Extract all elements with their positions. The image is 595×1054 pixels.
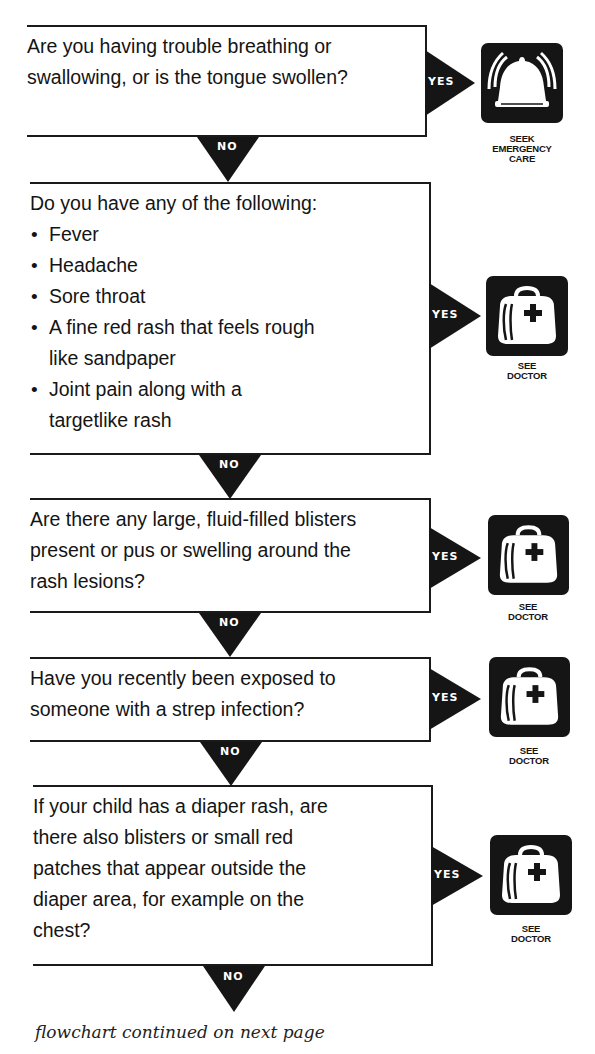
symptom-item: A fine red rash that feels rough like sa… [30, 312, 349, 374]
question-box-3: Are there any large, fluid-filled bliste… [30, 498, 431, 613]
yes-label-2: YES [432, 308, 458, 321]
yes-arrow-3: YES [429, 527, 481, 589]
no-label-1: NO [217, 140, 238, 153]
no-arrow-5: NO [203, 966, 265, 1012]
symptom-item: Headache [30, 250, 360, 281]
yes-arrow-1: YES [425, 50, 475, 116]
question-text-5: If your child has a diaper rash, are the… [33, 791, 363, 946]
continued-note: flowchart continued on next page [35, 1022, 325, 1042]
no-label-5: NO [223, 970, 244, 983]
yes-arrow-5: YES [431, 846, 483, 906]
emergency-bell-icon [481, 43, 563, 123]
question-box-4: Have you recently been exposed to someon… [30, 657, 431, 742]
doctor-bag-icon [490, 835, 572, 915]
symptom-list: Fever Headache Sore throat A fine red ra… [30, 219, 360, 436]
outcome-caption-4: SEE DOCTOR [481, 746, 577, 766]
no-label-3: NO [219, 616, 240, 629]
yes-label-1: YES [428, 75, 454, 88]
outcome-caption-1: SEEK EMERGENCY CARE [474, 134, 570, 164]
question-text-2: Do you have any of the following: [30, 188, 419, 219]
doctor-bag-icon [488, 515, 569, 595]
outcome-tile-3 [488, 515, 569, 595]
outcome-tile-2 [486, 276, 568, 356]
yes-label-4: YES [432, 691, 458, 704]
outcome-caption-5: SEE DOCTOR [483, 924, 579, 944]
no-arrow-1: NO [197, 137, 259, 182]
outcome-tile-4 [489, 657, 570, 737]
yes-arrow-4: YES [429, 668, 481, 730]
no-label-4: NO [220, 745, 241, 758]
outcome-caption-3: SEE DOCTOR [480, 602, 576, 622]
question-box-1: Are you having trouble breathing or swal… [27, 25, 427, 137]
no-arrow-2: NO [199, 455, 261, 499]
symptom-item: Joint pain along with a targetlike rash [30, 374, 269, 436]
question-text-1: Are you having trouble breathing or swal… [27, 31, 357, 93]
symptom-item: Fever [30, 219, 360, 250]
symptom-item: Sore throat [30, 281, 360, 312]
doctor-bag-icon [489, 657, 570, 737]
outcome-tile-1 [481, 43, 563, 123]
question-box-2: Do you have any of the following: Fever … [30, 182, 431, 455]
yes-arrow-2: YES [429, 283, 481, 349]
yes-label-3: YES [432, 550, 458, 563]
outcome-caption-2: SEE DOCTOR [479, 361, 575, 381]
question-text-4: Have you recently been exposed to someon… [30, 663, 395, 725]
yes-label-5: YES [434, 868, 460, 881]
outcome-tile-5 [490, 835, 572, 915]
doctor-bag-icon [486, 276, 568, 356]
no-arrow-4: NO [200, 742, 262, 786]
no-arrow-3: NO [199, 613, 261, 657]
question-box-5: If your child has a diaper rash, are the… [33, 785, 433, 966]
no-label-2: NO [219, 458, 240, 471]
question-text-3: Are there any large, fluid-filled bliste… [30, 504, 380, 597]
